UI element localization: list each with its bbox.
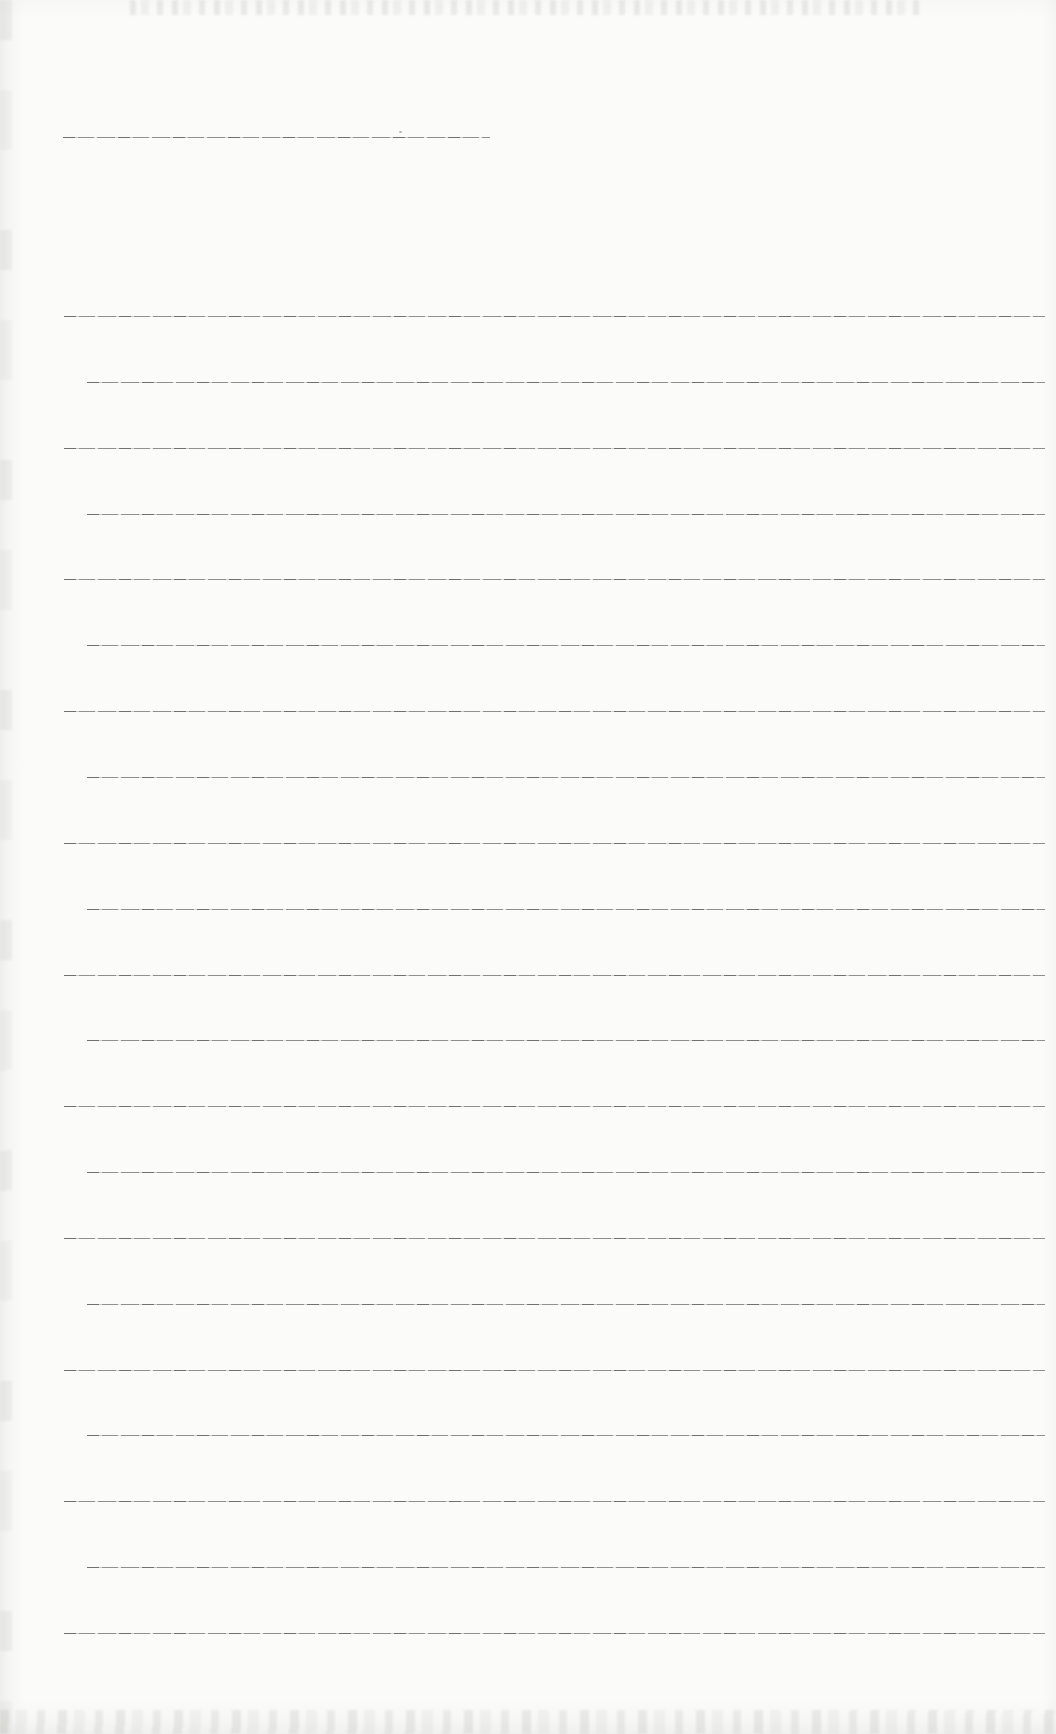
ruled-line — [64, 1040, 1045, 1042]
scan-noise-top — [130, 0, 920, 15]
scan-speck — [399, 131, 402, 133]
ruled-line — [64, 1370, 1045, 1372]
ruled-line — [64, 382, 1045, 384]
ruled-line — [64, 843, 1045, 845]
scan-noise-left — [0, 0, 12, 1734]
ruled-line — [64, 1106, 1045, 1108]
ruled-line — [64, 579, 1045, 581]
ruled-line — [64, 316, 1045, 318]
ruled-line — [64, 645, 1045, 647]
ruled-line — [64, 777, 1045, 779]
ruled-line — [64, 1501, 1045, 1503]
ruled-line — [64, 514, 1045, 516]
ruled-line — [64, 1238, 1045, 1240]
ruled-line — [64, 711, 1045, 713]
ruled-line — [64, 1304, 1045, 1306]
ruled-line — [64, 1567, 1045, 1569]
ruled-line — [64, 909, 1045, 911]
ruled-line — [64, 1633, 1045, 1635]
ruled-line — [64, 975, 1045, 977]
ruled-line — [64, 1435, 1045, 1437]
title-rule — [63, 137, 490, 139]
ruled-line — [64, 448, 1045, 450]
scan-noise-bottom — [0, 1710, 1056, 1734]
notebook-page — [0, 0, 1056, 1734]
ruled-line — [64, 1172, 1045, 1174]
